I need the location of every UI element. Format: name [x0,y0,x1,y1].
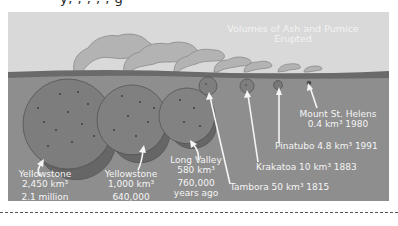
diagram-title: Volumes of Ash and Pumice Erupted [208,24,378,44]
dashed-divider [0,212,398,213]
sphere-pinatubo [274,81,283,90]
label-mount-st-helens: Mount St. Helens 0.4 km³ 1980 [296,109,380,129]
label-long-valley: Long Valley 580 km³ 760,000 years ago [164,155,228,198]
sphere-tambora [199,77,217,95]
ground-surface-line [8,70,389,79]
cropped-heading-text: y, , , , , g [60,0,123,6]
eruption-volume-diagram: Volumes of Ash and Pumice Erupted Yellow… [8,12,389,201]
label-yellowstone-2450: Yellowstone 2,450 km³ 2.1 million years … [10,169,80,201]
label-tambora: Tambora 50 km³ 1815 [230,182,329,192]
label-pinatubo: Pinatubo 4.8 km³ 1991 [275,141,378,151]
label-yellowstone-1000: Yellowstone 1,000 km³ 640,000 years ago [96,169,166,201]
label-krakatoa: Krakatoa 10 km³ 1883 [256,162,357,172]
